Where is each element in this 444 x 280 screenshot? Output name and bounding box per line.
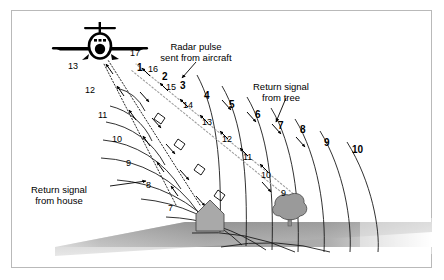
radar-diagram-page: 123456789101716151413121110913121110987R…: [0, 0, 444, 280]
annotation-line-2: from tree: [253, 93, 309, 104]
return-path-label: 15: [166, 82, 176, 92]
outgoing-arc-label: 1: [137, 62, 143, 73]
return-path-label: 10: [112, 134, 122, 144]
outgoing-arc-label: 5: [229, 99, 235, 110]
return-path-label: 11: [98, 110, 107, 120]
return-path-label: 16: [148, 64, 158, 74]
return-path-label: 14: [183, 100, 193, 110]
radar-pulse-annotation: Radar pulsesent from aircraft: [160, 42, 231, 63]
outgoing-arc-label: 4: [204, 90, 210, 101]
leader-radar-pulse: [182, 62, 196, 78]
return-tree-annotation: Return signalfrom tree: [253, 82, 309, 103]
return-path-label: 12: [222, 134, 232, 144]
outgoing-arc-label: 7: [278, 120, 284, 131]
return-path-label: 17: [130, 48, 140, 58]
return-path-label: 7: [168, 203, 173, 213]
outgoing-arc-label: 10: [352, 144, 363, 155]
tree-shape: [273, 193, 307, 226]
annotation-line-2: from house: [31, 196, 87, 207]
annotation-line-2: sent from aircraft: [160, 53, 231, 64]
return-path-label: 12: [85, 85, 95, 95]
return-house-annotation: Return signalfrom house: [31, 185, 87, 206]
outgoing-arc-label: 6: [255, 109, 261, 120]
outgoing-arc-label: 9: [324, 137, 330, 148]
return-path-label: 13: [202, 117, 212, 127]
return-path-label: 9: [281, 188, 286, 198]
return-path-label: 10: [261, 170, 271, 180]
outgoing-arc-label: 8: [300, 124, 306, 135]
outgoing-arc-label: 2: [162, 71, 168, 82]
ground-fade: [360, 218, 432, 254]
return-path-label: 11: [243, 152, 252, 162]
return-path-label: 8: [146, 180, 151, 190]
outgoing-arc-label: 3: [180, 80, 186, 91]
return-path-label: 13: [68, 61, 78, 71]
return-path-label: 9: [126, 158, 131, 168]
